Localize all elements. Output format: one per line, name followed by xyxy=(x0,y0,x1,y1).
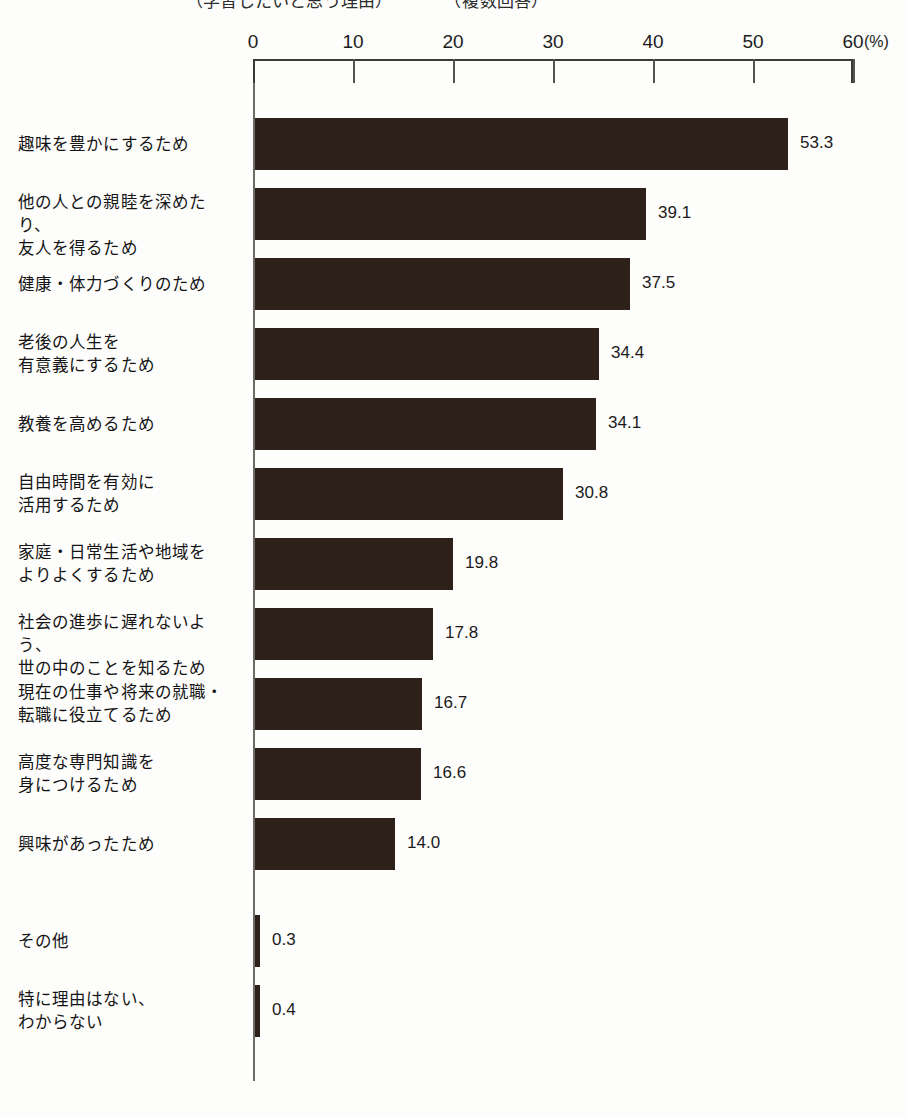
bar-category-label: 社会の進歩に遅れないよう、 世の中のことを知るため xyxy=(18,611,238,680)
bar xyxy=(255,915,260,967)
bar xyxy=(255,818,395,870)
bar-category-label: 家庭・日常生活や地域を よりよくするため xyxy=(18,541,238,587)
bar-value-label: 34.4 xyxy=(611,343,644,363)
bar-value-label: 39.1 xyxy=(658,203,691,223)
x-axis-tick-50 xyxy=(753,59,755,83)
bar-category-label: その他 xyxy=(18,930,238,953)
bar xyxy=(255,118,788,170)
x-axis-tick-30 xyxy=(553,59,555,83)
bar-row: 老後の人生を 有意義にするため34.4 xyxy=(0,328,908,380)
x-axis-tick-60 xyxy=(853,59,855,83)
bar-value-label: 19.8 xyxy=(465,553,498,573)
bar-category-label: 現在の仕事や将来の就職・ 転職に役立てるため xyxy=(18,681,238,727)
bar-row: 現在の仕事や将来の就職・ 転職に役立てるため16.7 xyxy=(0,678,908,730)
bar-rows: 趣味を豊かにするため53.3他の人との親睦を深めたり、 友人を得るため39.1健… xyxy=(0,0,908,1117)
bar-category-label: 興味があったため xyxy=(18,833,238,856)
bar-value-label: 34.1 xyxy=(608,413,641,433)
bar-row: 自由時間を有効に 活用するため30.8 xyxy=(0,468,908,520)
bar-row: 高度な専門知識を 身につけるため16.6 xyxy=(0,748,908,800)
bar-category-label: 趣味を豊かにするため xyxy=(18,133,238,156)
bar xyxy=(255,328,599,380)
bar-row: 趣味を豊かにするため53.3 xyxy=(0,118,908,170)
bar-category-label: 自由時間を有効に 活用するため xyxy=(18,471,238,517)
x-axis-tick-40 xyxy=(653,59,655,83)
bar-category-label: 高度な専門知識を 身につけるため xyxy=(18,751,238,797)
bar xyxy=(255,468,563,520)
x-axis-tick-20 xyxy=(453,59,455,83)
bar-row: 健康・体力づくりのため37.5 xyxy=(0,258,908,310)
bar xyxy=(255,678,422,730)
bar-category-label: 老後の人生を 有意義にするため xyxy=(18,331,238,377)
bar-value-label: 14.0 xyxy=(407,833,440,853)
x-axis-tick-10 xyxy=(353,59,355,83)
bar-value-label: 0.3 xyxy=(272,930,296,950)
bar-category-label: 健康・体力づくりのため xyxy=(18,273,238,296)
bar-row: 教養を高めるため34.1 xyxy=(0,398,908,450)
bar-row: 家庭・日常生活や地域を よりよくするため19.8 xyxy=(0,538,908,590)
bar-row: 社会の進歩に遅れないよう、 世の中のことを知るため17.8 xyxy=(0,608,908,660)
bar-row: 特に理由はない、 わからない0.4 xyxy=(0,985,908,1037)
bar-value-label: 0.4 xyxy=(272,1000,296,1020)
bar-row: 興味があったため14.0 xyxy=(0,818,908,870)
bar-value-label: 37.5 xyxy=(642,273,675,293)
bar-category-label: 特に理由はない、 わからない xyxy=(18,988,238,1034)
bar-category-label: 教養を高めるため xyxy=(18,413,238,436)
bar xyxy=(255,608,433,660)
bar xyxy=(255,188,646,240)
bar-row: その他0.3 xyxy=(0,915,908,967)
bar-value-label: 16.7 xyxy=(434,693,467,713)
bar-row: 他の人との親睦を深めたり、 友人を得るため39.1 xyxy=(0,188,908,240)
chart-page: （学習したいと思う理由） （複数回答） 0102030405060(%) 趣味を… xyxy=(0,0,908,1117)
bar xyxy=(255,538,453,590)
bar-category-label: 他の人との親睦を深めたり、 友人を得るため xyxy=(18,191,238,260)
bar xyxy=(255,258,630,310)
bar-value-label: 30.8 xyxy=(575,483,608,503)
bar-value-label: 16.6 xyxy=(433,763,466,783)
bar xyxy=(255,985,260,1037)
bar xyxy=(255,748,421,800)
bar-value-label: 17.8 xyxy=(445,623,478,643)
bar xyxy=(255,398,596,450)
bar-value-label: 53.3 xyxy=(800,133,833,153)
